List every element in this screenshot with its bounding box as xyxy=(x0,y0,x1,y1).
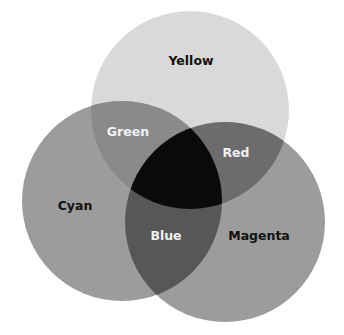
label-cyan: Cyan xyxy=(58,198,93,213)
venn-diagram: Yellow Green Red Cyan Blue Magenta xyxy=(0,0,344,335)
label-yellow: Yellow xyxy=(167,53,214,68)
label-green: Green xyxy=(107,124,149,139)
label-blue: Blue xyxy=(150,228,181,243)
label-magenta: Magenta xyxy=(228,228,290,243)
label-red: Red xyxy=(222,145,249,160)
